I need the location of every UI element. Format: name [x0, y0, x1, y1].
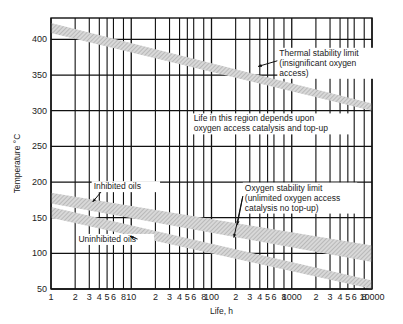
- y-axis-label: Temperature °C: [12, 134, 22, 194]
- annotation-oxygen: Oxygen stability limit: [245, 183, 323, 193]
- annotation-oxygen: catalysis no top-up): [245, 203, 319, 213]
- x-tick-label: 6: [352, 292, 357, 302]
- x-tick-label: 3: [87, 292, 92, 302]
- x-tick-label: 10000: [359, 292, 384, 302]
- x-tick-label: 2: [73, 292, 78, 302]
- annotation-inhibited: Inhibited oils: [94, 181, 141, 191]
- y-tick-label: 50: [37, 284, 47, 294]
- annotation-uninhibited: Uninhibited oils: [78, 234, 136, 244]
- x-tick-label: 5: [185, 292, 190, 302]
- annotation-region: oxygen access catalysis and top-up: [194, 123, 328, 133]
- x-tick-label: 1000: [282, 292, 302, 302]
- x-tick-label: 5: [345, 292, 350, 302]
- x-tick-label: 4: [177, 292, 182, 302]
- x-tick-label: 3: [167, 292, 172, 302]
- x-tick-label: 3: [328, 292, 333, 302]
- x-axis-label: Life, h: [210, 306, 233, 316]
- x-tick-label: 6: [111, 292, 116, 302]
- x-tick-label: 2: [313, 292, 318, 302]
- chart: 50100150200250300350400 1234568102345681…: [0, 0, 403, 324]
- y-tick-label: 300: [32, 106, 47, 116]
- annotation-oxygen: (unlimited oxygen access: [245, 193, 340, 203]
- x-tick-label: 6: [191, 292, 196, 302]
- x-tick-label: 1: [48, 292, 53, 302]
- y-tick-label: 200: [32, 177, 47, 187]
- x-tick-label: 10: [126, 292, 136, 302]
- y-tick-label: 150: [32, 213, 47, 223]
- annotation-region: Life in this region depends upon: [194, 113, 315, 123]
- x-tick-label: 3: [247, 292, 252, 302]
- y-tick-label: 350: [32, 70, 47, 80]
- x-tick-label: 2: [233, 292, 238, 302]
- y-tick-label: 400: [32, 34, 47, 44]
- x-tick-label: 100: [204, 292, 219, 302]
- y-tick-label: 100: [32, 248, 47, 258]
- x-tick-labels: 123456810234568100234568100023456810000: [48, 292, 384, 302]
- y-tick-label: 250: [32, 141, 47, 151]
- annotation-thermal: access): [279, 68, 308, 78]
- x-tick-label: 4: [338, 292, 343, 302]
- x-tick-label: 5: [265, 292, 270, 302]
- annotation-thermal: Thermal stability limit: [279, 48, 359, 58]
- x-tick-label: 2: [153, 292, 158, 302]
- x-tick-label: 8: [121, 292, 126, 302]
- x-tick-label: 5: [105, 292, 110, 302]
- x-tick-label: 6: [271, 292, 276, 302]
- y-tick-labels: 50100150200250300350400: [32, 34, 47, 294]
- x-tick-label: 4: [97, 292, 102, 302]
- annotation-thermal: (insignificant oxygen: [279, 58, 356, 68]
- x-tick-label: 4: [257, 292, 262, 302]
